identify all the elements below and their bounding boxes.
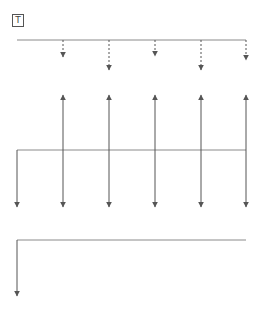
cash-flow-diagram	[0, 0, 263, 314]
top-timeline	[17, 40, 246, 70]
middle-timeline	[17, 95, 246, 207]
bottom-timeline	[17, 240, 246, 296]
